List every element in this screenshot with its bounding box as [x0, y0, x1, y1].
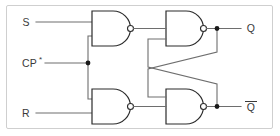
nand4-body	[166, 89, 204, 124]
input-label-cp: CP	[22, 57, 37, 69]
nand3-body	[166, 11, 204, 46]
nand-gate-2[interactable]	[92, 89, 134, 124]
junction-qbar-tap	[215, 104, 220, 109]
nand-gate-3[interactable]	[166, 11, 207, 46]
output-label-q: Q	[247, 22, 255, 34]
nand4-inversion-bubble	[201, 104, 207, 110]
input-label-s: S	[22, 16, 29, 28]
input-label-r: R	[22, 107, 30, 119]
nand-gate-4[interactable]	[166, 89, 207, 124]
input-wires	[36, 22, 92, 113]
input-label-cp-star: *	[39, 55, 42, 64]
port-labels: S CP * R Q Q	[22, 16, 257, 119]
nand-gate-1[interactable]	[92, 11, 134, 46]
nand1-inversion-bubble	[128, 26, 134, 32]
nand2-body	[92, 89, 131, 124]
nand3-inversion-bubble	[201, 26, 207, 32]
nand2-inversion-bubble	[128, 104, 134, 110]
circuit-canvas: S CP * R Q Q	[0, 0, 280, 136]
junction-cp-branch	[86, 61, 91, 66]
junction-q-tap	[215, 26, 220, 31]
nand1-body	[92, 11, 131, 46]
output-label-qbar: Q	[247, 101, 255, 113]
logic-circuit-figure: S CP * R Q Q	[0, 0, 280, 136]
